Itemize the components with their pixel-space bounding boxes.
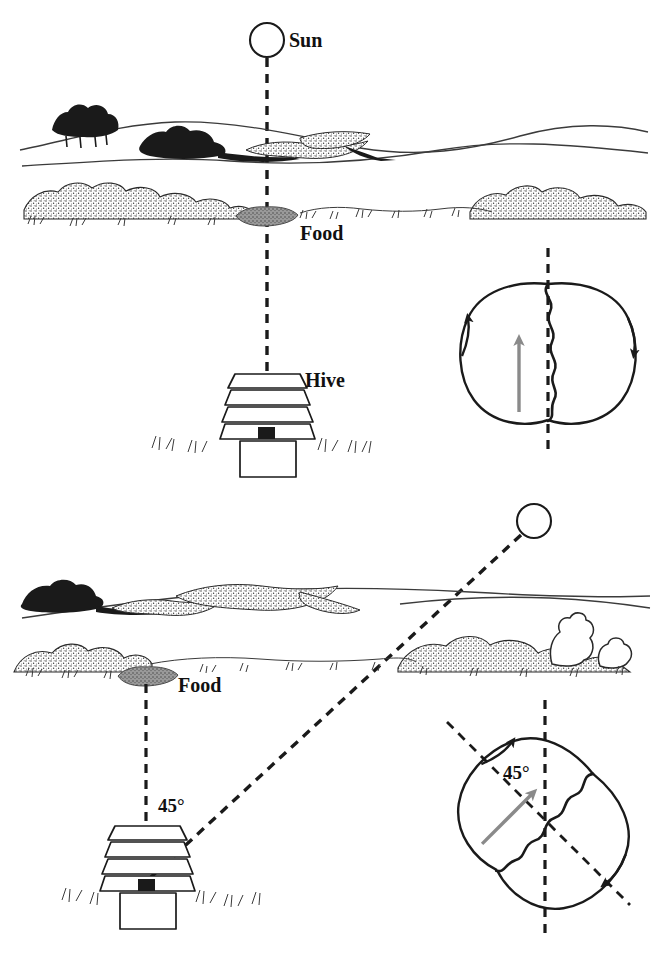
- waggle-dance-figure: Sun: [0, 0, 660, 968]
- hive-base-stand: [240, 441, 296, 477]
- label-angle-field: 45°: [158, 795, 185, 816]
- label-angle-dance: 45°: [503, 762, 530, 783]
- sun-circle-icon: [250, 23, 284, 57]
- label-hive: Hive: [305, 369, 345, 391]
- hive-band-2: [225, 390, 310, 405]
- hive-band-1: [228, 374, 307, 388]
- hive-entrance-top: [258, 427, 275, 439]
- label-food-bottom: Food: [178, 674, 221, 696]
- label-sun: Sun: [289, 29, 322, 51]
- hive-band-1-bottom: [108, 826, 187, 840]
- sun-circle-icon-bottom: [517, 504, 551, 538]
- hive-band-3: [222, 407, 313, 422]
- hive-band-3-bottom: [102, 859, 193, 874]
- hive-band-2-bottom: [105, 842, 190, 857]
- hive-entrance-bottom: [138, 879, 155, 891]
- label-food-top: Food: [300, 222, 343, 244]
- hive-base-stand-bottom: [120, 893, 176, 929]
- sun-top: [250, 23, 284, 57]
